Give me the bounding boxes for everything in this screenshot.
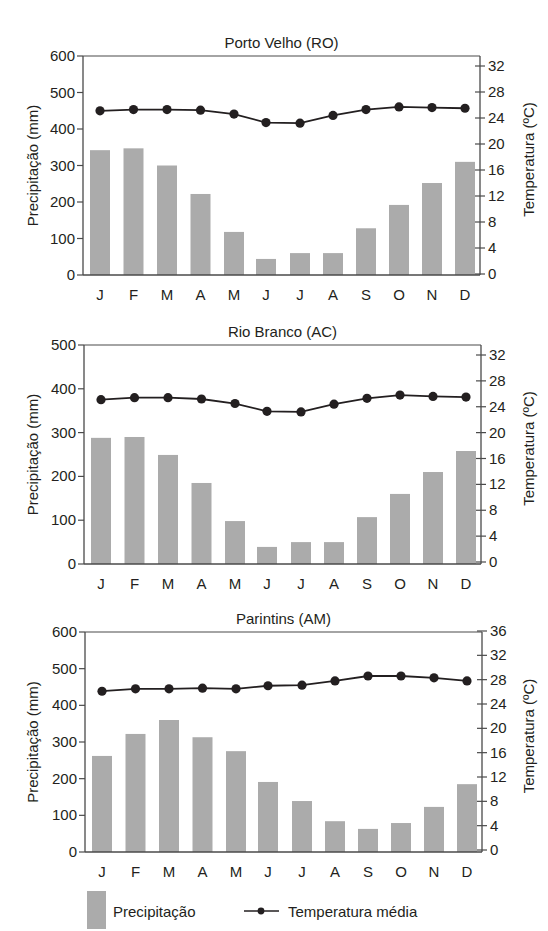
climate-charts: Porto Velho (RO)010020030040050060004812… — [0, 0, 548, 931]
y-tick-label: 100 — [51, 511, 76, 528]
y2-tick-label: 0 — [490, 841, 498, 858]
y2-tick-label: 8 — [490, 792, 498, 809]
precip-bar — [423, 472, 443, 564]
y2-tick-label: 20 — [488, 135, 505, 152]
precip-bar — [390, 494, 410, 564]
x-tick-label: M — [229, 575, 242, 592]
y2-tick-label: 16 — [489, 450, 506, 467]
x-tick-label: J — [98, 863, 106, 880]
precip-bar — [193, 737, 213, 852]
temperature-point — [427, 103, 436, 112]
x-tick-label: M — [228, 286, 241, 303]
y2-axis-label: Temperatura (ºC) — [520, 391, 537, 506]
temperature-point — [197, 394, 206, 403]
x-tick-label: M — [161, 286, 174, 303]
precip-bar — [290, 253, 310, 275]
x-tick-label: J — [298, 863, 306, 880]
x-tick-label: A — [328, 286, 338, 303]
temperature-point — [329, 400, 338, 409]
y-tick-label: 500 — [50, 84, 75, 101]
y2-tick-label: 24 — [490, 695, 507, 712]
temperature-point — [429, 673, 438, 682]
x-tick-label: D — [462, 863, 473, 880]
legend-precip-swatch — [87, 891, 106, 929]
y2-tick-label: 12 — [488, 187, 505, 204]
precip-bar — [126, 734, 146, 852]
precip-bar — [191, 194, 211, 275]
y2-tick-label: 4 — [490, 817, 498, 834]
temperature-point — [163, 393, 172, 402]
temperature-point — [95, 106, 104, 115]
y2-tick-label: 16 — [490, 744, 507, 761]
y-tick-label: 200 — [51, 467, 76, 484]
temperature-point — [394, 102, 403, 111]
y2-tick-label: 24 — [489, 398, 506, 415]
y-tick-label: 300 — [50, 157, 75, 174]
precip-bar — [356, 228, 376, 275]
precip-bar — [324, 542, 344, 564]
y2-tick-label: 8 — [489, 501, 497, 518]
precip-bar — [192, 483, 212, 564]
y-tick-label: 400 — [52, 696, 77, 713]
y-tick-label: 500 — [51, 336, 76, 353]
precip-bar — [159, 720, 179, 852]
temperature-point — [428, 392, 437, 401]
x-tick-label: A — [195, 286, 205, 303]
x-tick-label: J — [263, 575, 271, 592]
precip-bar — [456, 451, 476, 564]
temperature-line — [102, 676, 467, 691]
y-tick-label: 0 — [68, 555, 76, 572]
precip-bar — [158, 455, 178, 564]
y2-tick-label: 28 — [490, 671, 507, 688]
y-axis-label: Precipitação (mm) — [24, 105, 41, 227]
precip-bar — [256, 259, 276, 275]
precip-bar — [226, 751, 246, 852]
y-tick-label: 100 — [52, 806, 77, 823]
y2-tick-label: 32 — [490, 646, 507, 663]
y2-tick-label: 4 — [489, 527, 497, 544]
x-tick-label: J — [97, 575, 105, 592]
x-tick-label: M — [230, 863, 243, 880]
chart-title: Parintins (AM) — [236, 610, 331, 627]
chart-2: Rio Branco (AC)0100200300400500048121620… — [24, 323, 537, 592]
precip-bar — [125, 437, 145, 564]
temperature-point — [97, 687, 106, 696]
temperature-point — [396, 671, 405, 680]
temperature-point — [363, 671, 372, 680]
legend-temp-marker-icon — [244, 908, 279, 915]
y-tick-label: 500 — [52, 660, 77, 677]
x-tick-label: A — [197, 863, 207, 880]
y-tick-label: 100 — [50, 230, 75, 247]
x-tick-label: S — [362, 575, 372, 592]
x-tick-label: J — [297, 575, 305, 592]
precip-bar — [258, 782, 278, 852]
temperature-point — [395, 391, 404, 400]
y2-tick-label: 32 — [488, 57, 505, 74]
chart-1: Porto Velho (RO)010020030040050060004812… — [24, 34, 537, 303]
y2-tick-label: 36 — [490, 622, 507, 639]
y-tick-label: 300 — [51, 424, 76, 441]
y2-axis-label: Temperatura (ºC) — [520, 679, 537, 794]
y2-tick-label: 12 — [490, 768, 507, 785]
x-tick-label: N — [428, 575, 439, 592]
y2-tick-label: 0 — [489, 553, 497, 570]
temperature-point — [361, 105, 370, 114]
y-tick-label: 600 — [50, 47, 75, 64]
temperature-point — [198, 684, 207, 693]
x-tick-label: F — [130, 575, 139, 592]
y-tick-label: 200 — [50, 193, 75, 210]
x-tick-label: M — [162, 575, 175, 592]
x-tick-label: A — [196, 575, 206, 592]
y2-tick-label: 32 — [489, 346, 506, 363]
y2-tick-label: 28 — [488, 83, 505, 100]
x-tick-label: N — [429, 863, 440, 880]
y2-tick-label: 20 — [490, 719, 507, 736]
temperature-point — [328, 111, 337, 120]
precip-bar — [224, 232, 244, 275]
temperature-point — [262, 407, 271, 416]
precip-bar — [124, 148, 144, 275]
precip-bar — [225, 521, 245, 564]
precip-bar — [157, 166, 177, 276]
temperature-point — [330, 676, 339, 685]
chart-title: Porto Velho (RO) — [224, 34, 338, 51]
